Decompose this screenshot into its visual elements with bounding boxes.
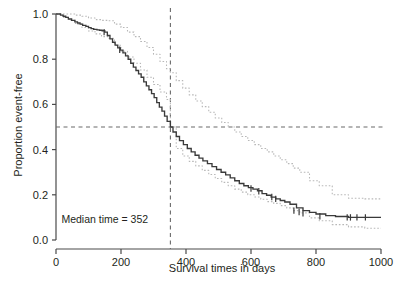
plot-canvas: 0.00.20.40.60.81.0 02004006008001000 Med… [0,0,398,283]
y-tick-label: 0.2 [33,189,48,201]
median-time-label: Median time = 352 [61,213,148,225]
annotation-group: Median time = 352 [61,213,148,225]
x-axis-title: Survival times in days [169,262,276,274]
survival-curve-chart: 0.00.20.40.60.81.0 02004006008001000 Med… [0,0,398,283]
y-tick-label: 1.0 [33,8,48,20]
y-tick-label: 0.0 [33,234,48,246]
censoring-tick-group [104,29,365,221]
confidence-band-group [56,14,381,228]
y-tick-label-group: 0.00.20.40.60.81.0 [33,8,48,246]
x-tick-label: 800 [307,256,325,268]
x-tick-label: 200 [112,256,130,268]
y-tick-label: 0.6 [33,98,48,110]
ci-ci-upper [56,14,381,199]
x-tick-label: 1000 [369,256,393,268]
ci-ci-lower [56,14,381,228]
y-tick-label: 0.8 [33,53,48,65]
y-tick-label: 0.4 [33,144,48,156]
y-axis-title: Proportion event-free [12,73,24,176]
x-tick-label: 0 [53,256,59,268]
